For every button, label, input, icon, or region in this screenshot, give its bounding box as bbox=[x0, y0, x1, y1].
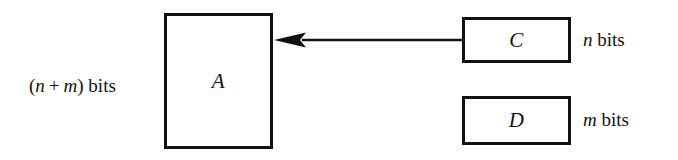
variable-n: n bbox=[583, 29, 593, 50]
box-a-bit-width-label: (n+m) bits bbox=[29, 76, 116, 95]
variable-m: m bbox=[64, 75, 78, 96]
box-a-label: A bbox=[212, 71, 225, 92]
box-d-label: D bbox=[509, 110, 525, 131]
bits-unit: bits bbox=[601, 109, 628, 130]
register-box-d: D bbox=[462, 96, 571, 145]
plus-operator: + bbox=[45, 75, 64, 96]
close-paren: ) bbox=[77, 75, 83, 96]
arrow-c-to-a-icon bbox=[272, 30, 464, 50]
box-c-label: C bbox=[509, 30, 524, 51]
register-box-c: C bbox=[462, 17, 571, 63]
register-box-a: A bbox=[164, 13, 273, 149]
variable-m: m bbox=[583, 109, 597, 130]
bits-unit: bits bbox=[88, 75, 115, 96]
box-c-bit-width-label: n bits bbox=[583, 30, 625, 49]
variable-n: n bbox=[35, 75, 45, 96]
box-d-bit-width-label: m bits bbox=[583, 110, 629, 129]
bits-unit: bits bbox=[597, 29, 624, 50]
bit-width-diagram: (n+m) bits A C n bits D m bits bbox=[0, 0, 678, 160]
